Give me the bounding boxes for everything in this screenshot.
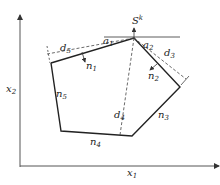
polygon-diagram: Sk d5 a1 a2 d3 n1 n2 n5 d4 n3 n4 x1 x2 bbox=[0, 0, 220, 185]
n2-label: n2 bbox=[148, 70, 159, 83]
d3-tick bbox=[181, 76, 189, 85]
x1-label: x1 bbox=[127, 167, 137, 180]
sk-label: Sk bbox=[132, 14, 143, 26]
n1-label: n1 bbox=[86, 60, 97, 73]
d5-label: d5 bbox=[60, 42, 71, 55]
n4-label: n4 bbox=[90, 136, 101, 149]
d4-label: d4 bbox=[114, 109, 125, 122]
d3-label: d3 bbox=[164, 47, 175, 60]
d3-line bbox=[134, 38, 186, 79]
d5-tick bbox=[47, 46, 50, 63]
n3-label: n3 bbox=[158, 109, 169, 122]
x2-label: x2 bbox=[6, 83, 17, 96]
n5-label: n5 bbox=[56, 88, 67, 101]
